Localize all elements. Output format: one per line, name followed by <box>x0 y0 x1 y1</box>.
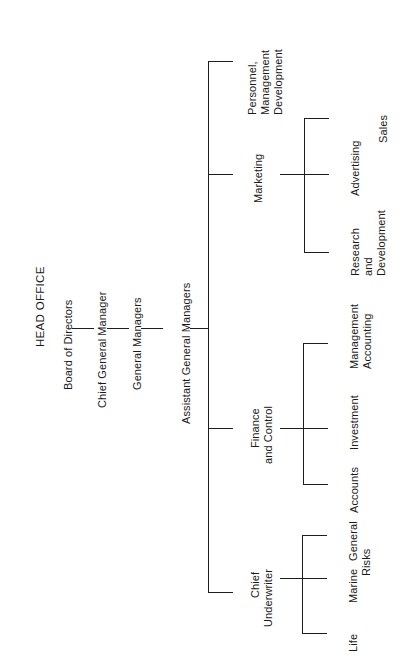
branch-marketing <box>208 174 233 175</box>
page-title: HEAD OFFICE <box>34 266 47 347</box>
branch-accounts <box>303 484 328 485</box>
division-spine <box>208 61 209 593</box>
level-label-assistant-general-managers: Assistant General Managers <box>180 283 193 424</box>
feed-finance-subtree <box>280 428 304 429</box>
branch-chief-underwriter <box>208 592 233 593</box>
division-label-personnel-line2: Management <box>259 50 272 115</box>
sub-label-research-line3: Development <box>375 210 388 276</box>
sub-label-life: Life <box>347 634 360 652</box>
sub-label-investment: Investment <box>348 395 361 450</box>
division-label-chief-underwriter-line2: Underwriter <box>262 569 275 627</box>
level-label-general-managers: General Managers <box>131 297 144 390</box>
connector-general-to-assistant-managers <box>141 328 163 329</box>
division-label-chief-underwriter-line1: Chief <box>249 572 262 598</box>
sub-label-research-line2: and <box>362 257 375 276</box>
division-label-marketing: Marketing <box>252 154 265 203</box>
division-label-personnel-line3: Development <box>272 49 285 115</box>
branch-investment <box>303 428 328 429</box>
sub-label-management-accounting-line1: Management <box>348 304 361 369</box>
branch-marine <box>302 578 327 579</box>
sub-label-sales: Sales <box>377 115 390 143</box>
branch-advertising <box>304 174 329 175</box>
branch-personnel <box>208 61 233 62</box>
sub-label-accounts: Accounts <box>348 467 361 513</box>
underwriter-sub-spine <box>302 535 303 633</box>
sub-label-general-risks-line1: General <box>347 521 360 561</box>
sub-label-management-accounting-line2: Accounting <box>361 314 374 369</box>
connector-chief-to-general-managers <box>107 328 129 329</box>
branch-management-accounting <box>303 343 328 344</box>
connector-board-to-chief <box>72 328 94 329</box>
division-label-finance-line1: Finance <box>249 408 262 448</box>
feed-underwriter-subtree <box>280 578 303 579</box>
branch-finance-and-control <box>208 428 233 429</box>
branch-life <box>302 633 327 634</box>
sub-label-general-risks-line2: Risks <box>360 549 373 576</box>
branch-sales <box>304 118 329 119</box>
level-label-chief-general-manager: Chief General Manager <box>96 292 109 408</box>
branch-research-and-development <box>304 252 329 253</box>
org-chart-canvas: HEAD OFFICE Board of Directors Chief Gen… <box>0 0 400 665</box>
marketing-sub-spine <box>304 118 305 253</box>
sub-label-advertising: Advertising <box>349 140 362 196</box>
level-label-board-of-directors: Board of Directors <box>62 300 75 390</box>
sub-label-marine: Marine <box>347 569 360 603</box>
finance-sub-spine <box>303 343 304 484</box>
division-label-finance-line2: and Control <box>262 406 275 464</box>
branch-general-risks <box>302 535 327 536</box>
connector-assistant-to-divisions <box>190 328 209 329</box>
feed-marketing-subtree <box>280 174 305 175</box>
sub-label-research-line1: Research <box>349 228 362 276</box>
division-label-personnel-line1: Personnel, <box>246 61 259 115</box>
